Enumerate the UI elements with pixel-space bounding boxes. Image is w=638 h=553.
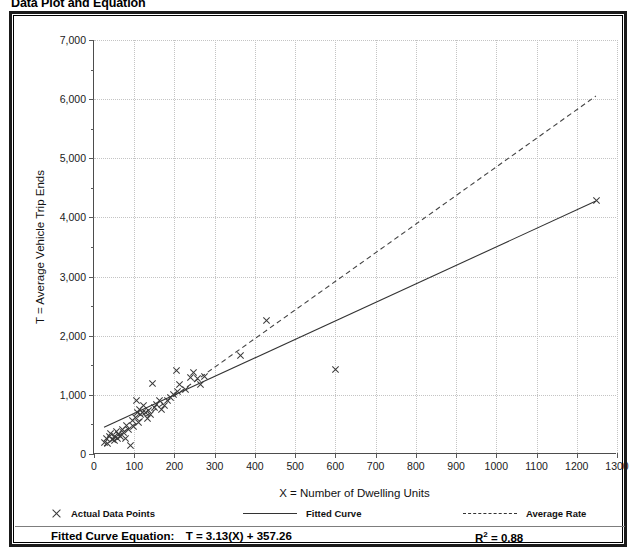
x-axis-tick-label: 700 <box>367 460 385 472</box>
plot-area: 01,0002,0003,0004,0005,0006,0007,000 010… <box>93 40 616 454</box>
legend-label-data-points: Actual Data Points <box>71 508 155 519</box>
x-axis-tick <box>537 453 538 458</box>
x-axis-tick <box>94 453 95 458</box>
y-axis-tick-label: 4,000 <box>60 211 86 223</box>
x-axis-tick-label: 100 <box>125 460 143 472</box>
x-axis-tick <box>295 453 296 458</box>
x-marker-icon <box>51 508 62 519</box>
x-axis-tick-label: 200 <box>166 460 184 472</box>
legend-label-fitted-curve: Fitted Curve <box>306 508 361 519</box>
page-title: Data Plot and Equation <box>11 0 146 10</box>
x-axis-tick <box>617 453 618 458</box>
x-axis-tick <box>376 453 377 458</box>
x-axis-tick-label: 0 <box>91 460 97 472</box>
legend-item-average-rate: Average Rate <box>463 500 586 526</box>
fitted-equation-value: T = 3.13(X) + 357.26 <box>186 530 292 542</box>
r-squared-value: R2 = 0.88 <box>475 530 523 544</box>
legend: Actual Data Points Fitted Curve Average … <box>15 500 625 526</box>
figure-panel: T = Average Vehicle Trip Ends X = Number… <box>9 11 627 547</box>
x-axis-tick-label: 1100 <box>525 460 548 472</box>
series-lines <box>94 40 616 453</box>
x-axis-tick-label: 900 <box>447 460 465 472</box>
y-axis-tick-label: 2,000 <box>60 330 86 342</box>
x-axis-tick <box>577 453 578 458</box>
legend-label-average-rate: Average Rate <box>526 508 586 519</box>
dashed-line-icon <box>463 513 517 514</box>
fitted-curve-equation: Fitted Curve Equation: T = 3.13(X) + 357… <box>51 530 292 542</box>
y-axis-tick-label: 1,000 <box>60 389 86 401</box>
y-axis-title: T = Average Vehicle Trip Ends <box>34 40 50 454</box>
x-axis-tick <box>496 453 497 458</box>
vertical-gridline <box>617 40 618 453</box>
legend-item-fitted-curve: Fitted Curve <box>243 500 361 526</box>
x-axis-tick <box>416 453 417 458</box>
fitted-equation-label: Fitted Curve Equation: <box>51 530 174 542</box>
x-axis-tick-label: 1200 <box>565 460 588 472</box>
x-axis-tick-label: 500 <box>286 460 304 472</box>
fitted-curve-line <box>104 201 596 427</box>
legend-item-data-points: Actual Data Points <box>51 500 155 526</box>
x-axis-tick-label: 400 <box>246 460 264 472</box>
y-axis-tick-label: 0 <box>80 448 86 460</box>
r-squared-exponent: 2 <box>483 530 487 539</box>
y-axis-tick-label: 3,000 <box>60 271 86 283</box>
figure-panel-inner-border: T = Average Vehicle Trip Ends X = Number… <box>13 15 623 543</box>
chart-region: T = Average Vehicle Trip Ends X = Number… <box>14 16 626 498</box>
equation-row: Fitted Curve Equation: T = 3.13(X) + 357… <box>15 527 625 549</box>
x-axis-tick <box>215 453 216 458</box>
x-axis-tick-label: 1000 <box>485 460 508 472</box>
x-axis-tick-label: 600 <box>327 460 345 472</box>
x-axis-tick <box>456 453 457 458</box>
x-axis-tick <box>174 453 175 458</box>
x-axis-tick-label: 300 <box>206 460 224 472</box>
x-axis-tick <box>335 453 336 458</box>
x-axis-title: X = Number of Dwelling Units <box>93 487 616 499</box>
y-axis-tick-label: 5,000 <box>60 152 86 164</box>
x-axis-tick-label: 1300 <box>605 460 628 472</box>
x-axis-tick <box>134 453 135 458</box>
y-axis-tick-label: 7,000 <box>60 34 86 46</box>
solid-line-icon <box>243 513 297 514</box>
x-axis-tick <box>255 453 256 458</box>
y-axis-tick-label: 6,000 <box>60 93 86 105</box>
r-squared-number: = 0.88 <box>491 532 523 544</box>
x-axis-tick-label: 800 <box>407 460 425 472</box>
